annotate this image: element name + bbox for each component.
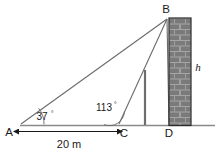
height-label-h: h	[195, 61, 201, 73]
angle-degree-symbol-C: °	[114, 101, 117, 108]
sight-line-C-to-B	[119, 19, 167, 124]
dimension-label-20m: 20 m	[57, 138, 81, 150]
angle-label-A: 37	[36, 111, 48, 122]
point-label-A: A	[5, 126, 13, 138]
brick-wall	[169, 18, 191, 126]
angle-label-C: 113	[96, 102, 112, 113]
angle-degree-symbol-A: °	[51, 110, 54, 117]
diagram-canvas: A B C D 37 ° 113 ° 20 m h	[0, 0, 219, 155]
point-label-C: C	[120, 127, 128, 139]
geometry-diagram: A B C D 37 ° 113 ° 20 m h	[0, 0, 219, 155]
point-label-B: B	[162, 3, 170, 15]
point-label-D: D	[165, 127, 173, 139]
